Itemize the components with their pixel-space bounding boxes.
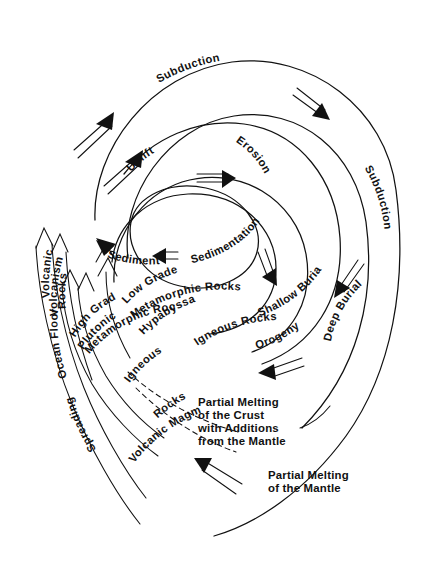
label-subduction-right: Subduction [363,163,395,230]
rock-cycle-diagram: Subduction Subduction Uplift Erosion Sed… [0,0,440,563]
arrow-double-uplift-to-erosion [197,170,236,188]
label-uplift: Uplift [124,144,156,173]
label-sediments: Sediments [0,0,160,266]
label-igneous: Igneous [121,344,163,385]
label-hypabyssal: Hypabyssal [0,0,197,336]
pmc-line-2: of the Crust [198,409,264,421]
pmc-line-4: from the Mantle [198,435,286,447]
label-subduction-top: Subduction [154,51,221,85]
rock-cycle-spiral-svg: Subduction Subduction Uplift Erosion Sed… [0,0,440,563]
arrowhead-volcanic-rocks [36,228,53,248]
label-ocean-floor: Ocean Floor [47,308,68,381]
outer-spiral-arc [95,61,400,536]
pmm-line-2: of the Mantle [268,482,341,494]
curved-labels: Subduction Subduction Uplift Erosion Sed… [0,0,394,464]
arrow-double-orogeny [258,358,304,380]
arrow-double-mantle [194,458,242,494]
arrowhead-volcanism [52,234,68,252]
arrowhead-plutonic [78,273,94,291]
text-block-partial-melting-mantle: Partial Melting of the Mantle [268,469,349,494]
label-sedimentation: Sedimentation [189,215,261,265]
pmm-line-1: Partial Melting [268,469,349,481]
arrow-double-subduction-right [293,88,330,120]
text-block-partial-melting-crust: Partial Melting of the Crust with Additi… [197,396,286,447]
pmc-line-1: Partial Melting [198,396,279,408]
label-erosion: Erosion [234,133,273,175]
arrow-double-uplift-outer [74,112,114,158]
label-spreading: Spreading [63,396,98,455]
pmc-line-3: with Additions [197,422,279,434]
